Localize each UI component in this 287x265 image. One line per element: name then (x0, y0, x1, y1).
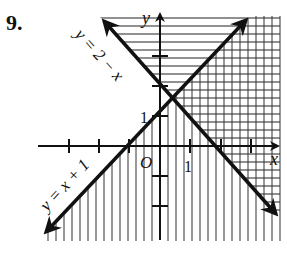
inequality-graph: y x O 1 1 y = 2 − x y = x + 1 (0, 0, 287, 265)
x-axis-label: x (269, 149, 278, 169)
label-y-equals-x-plus-1: y = x + 1 (35, 155, 94, 216)
origin-label: O (140, 153, 152, 172)
y-axis (152, 14, 168, 240)
y-axis-label: y (140, 8, 150, 28)
x-axis (38, 139, 278, 153)
x-tick-label-1: 1 (184, 158, 192, 175)
y-tick-label-1: 1 (140, 109, 148, 126)
label-y-equals-2-minus-x: y = 2 − x (70, 23, 128, 85)
